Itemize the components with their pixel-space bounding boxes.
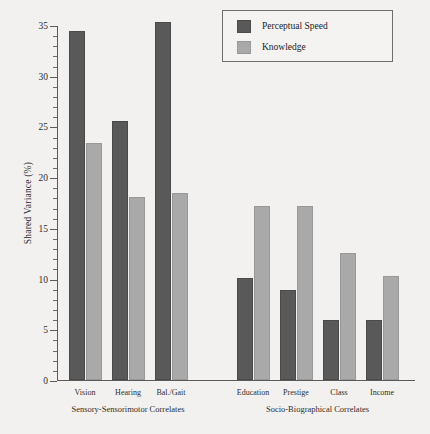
y-tick-mark — [50, 280, 57, 281]
bars-layer — [57, 26, 415, 381]
plot-area: 05101520253035 — [57, 26, 415, 381]
bar-perceptual-speed-hearing — [112, 121, 128, 380]
bar-knowledge-education — [254, 206, 270, 380]
bar-perceptual-speed-prestige — [280, 290, 296, 380]
y-tick-mark — [50, 127, 57, 128]
legend: Perceptual Speed Knowledge — [222, 10, 393, 62]
bar-knowledge-income — [383, 276, 399, 380]
x-tick-label-class: Class — [330, 388, 347, 397]
bar-perceptual-speed-income — [366, 320, 382, 380]
bar-perceptual-speed-education — [237, 278, 253, 380]
x-tick-label-income: Income — [370, 388, 394, 397]
y-tick-label: 20 — [39, 173, 49, 183]
bar-chart: Shared Variance (%) 05101520253035 Visio… — [0, 0, 430, 434]
y-tick-label: 10 — [39, 275, 49, 285]
bar-perceptual-speed-bal-gait — [155, 22, 171, 380]
bar-perceptual-speed-vision — [69, 31, 85, 380]
y-tick-mark — [50, 330, 57, 331]
x-tick-label-education: Education — [237, 388, 269, 397]
y-tick-mark — [50, 178, 57, 179]
legend-item-perceptual-speed: Perceptual Speed — [237, 18, 328, 34]
y-tick-mark — [50, 229, 57, 230]
legend-swatch-icon — [237, 20, 251, 33]
bar-knowledge-prestige — [297, 206, 313, 380]
x-group-label-sensory-sensorimotor-correlates: Sensory-Sensorimotor Correlates — [71, 404, 184, 414]
bar-knowledge-hearing — [129, 197, 145, 380]
x-tick-label-prestige: Prestige — [283, 388, 309, 397]
x-tick-label-bal-gait: Bal./Gait — [156, 388, 185, 397]
y-tick-mark — [50, 381, 57, 382]
y-tick-label: 25 — [39, 122, 49, 132]
legend-label: Knowledge — [262, 42, 306, 52]
bar-knowledge-vision — [86, 143, 102, 380]
legend-item-knowledge: Knowledge — [237, 39, 306, 55]
y-tick-mark — [50, 26, 57, 27]
y-tick-label: 5 — [43, 325, 48, 335]
y-tick-label: 15 — [39, 224, 49, 234]
y-tick-label: 0 — [43, 376, 48, 386]
y-tick-mark — [50, 77, 57, 78]
bar-perceptual-speed-class — [323, 320, 339, 380]
x-tick-label-vision: Vision — [75, 388, 96, 397]
legend-swatch-icon — [237, 41, 251, 54]
y-tick-label: 30 — [39, 72, 49, 82]
x-group-label-socio-biographical-correlates: Socio-Biographical Correlates — [266, 404, 369, 414]
y-axis-label: Shared Variance (%) — [23, 123, 33, 283]
legend-label: Perceptual Speed — [262, 21, 328, 31]
bar-knowledge-bal-gait — [172, 193, 188, 380]
y-tick-label: 35 — [39, 21, 49, 31]
x-tick-label-hearing: Hearing — [115, 388, 141, 397]
bar-knowledge-class — [340, 253, 356, 380]
